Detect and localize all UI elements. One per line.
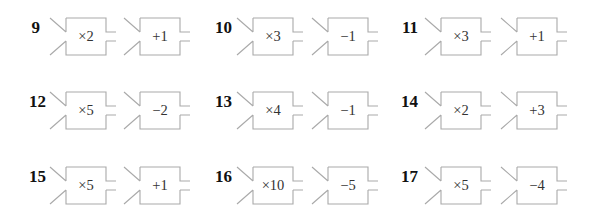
problem-number: 14: [396, 93, 418, 110]
operation-label: ×2: [66, 29, 106, 44]
function-machine-1: ×5: [50, 92, 116, 132]
operation-label: ×2: [441, 103, 481, 118]
function-machine-1: ×5: [425, 167, 491, 207]
problem-17: 17 ×5 −4: [396, 167, 586, 211]
function-machine-1: ×5: [50, 167, 116, 207]
operation-label: −2: [140, 103, 180, 118]
function-machine-2: +1: [501, 18, 567, 58]
problem-14: 14 ×2 +3: [396, 92, 586, 136]
problem-16: 16 ×10 −5: [206, 167, 396, 211]
function-machine-2: +1: [124, 18, 190, 58]
function-machine-2: −1: [312, 92, 378, 132]
operation-label: ×3: [441, 29, 481, 44]
problem-number: 17: [396, 168, 418, 185]
problem-number: 11: [396, 19, 418, 36]
function-machine-2: −4: [501, 167, 567, 207]
operation-label: ×5: [66, 178, 106, 193]
function-machine-1: ×3: [425, 18, 491, 58]
problem-10: 10 ×3 −1: [206, 18, 396, 62]
problem-11: 11 ×3 +1: [396, 18, 586, 62]
operation-label: −4: [517, 178, 557, 193]
function-machine-2: −5: [312, 167, 378, 207]
operation-label: +3: [517, 103, 557, 118]
function-machine-2: +3: [501, 92, 567, 132]
function-machine-1: ×10: [237, 167, 303, 207]
problem-number: 16: [206, 168, 232, 185]
function-machine-2: +1: [124, 167, 190, 207]
operation-label: ×5: [441, 178, 481, 193]
function-machine-1: ×4: [237, 92, 303, 132]
function-machine-1: ×2: [50, 18, 116, 58]
operation-label: +1: [140, 29, 180, 44]
function-machine-1: ×3: [237, 18, 303, 58]
problem-number: 15: [20, 168, 46, 185]
problem-number: 10: [206, 19, 232, 36]
operation-label: ×5: [66, 103, 106, 118]
problem-number: 12: [20, 93, 46, 110]
problem-13: 13 ×4 −1: [206, 92, 396, 136]
operation-label: ×3: [253, 29, 293, 44]
operation-label: −1: [328, 103, 368, 118]
problem-15: 15 ×5 +1: [20, 167, 210, 211]
operation-label: ×4: [253, 103, 293, 118]
function-machine-2: −1: [312, 18, 378, 58]
problem-9: 9 ×2 +1: [20, 18, 210, 62]
operation-label: ×10: [253, 178, 293, 193]
problem-number: 13: [206, 93, 232, 110]
function-machine-2: −2: [124, 92, 190, 132]
problem-12: 12 ×5 −2: [20, 92, 210, 136]
operation-label: +1: [517, 29, 557, 44]
operation-label: −1: [328, 29, 368, 44]
operation-label: +1: [140, 178, 180, 193]
operation-label: −5: [328, 178, 368, 193]
problem-number: 9: [20, 19, 40, 36]
function-machine-1: ×2: [425, 92, 491, 132]
